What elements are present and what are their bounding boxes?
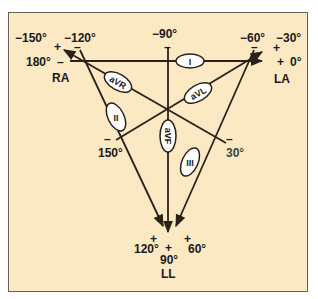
sign-minus-minus-60: – xyxy=(251,40,258,54)
sign-plus-0: + xyxy=(277,55,284,69)
lead-i-label: I xyxy=(176,54,204,68)
angle-minus-90: −90° xyxy=(152,27,177,41)
sign-minus-150: – xyxy=(104,132,111,146)
sign-minus-180: – xyxy=(57,55,64,69)
hexaxial-diagram: I aVR aVL II aVF III −150° + −120° – 180… xyxy=(0,0,318,299)
angle-90: 90° xyxy=(160,253,178,267)
electrode-ra: RA xyxy=(52,71,70,85)
angle-150: 150° xyxy=(98,146,123,160)
svg-text:aVF: aVF xyxy=(163,128,173,145)
sign-plus-minus-150: + xyxy=(54,40,61,54)
svg-text:I: I xyxy=(189,57,192,67)
sign-minus-minus-90: – xyxy=(164,40,171,54)
angle-0: 0° xyxy=(290,55,302,69)
angle-120: 120° xyxy=(134,242,159,256)
sign-minus-minus-120: – xyxy=(74,40,81,54)
angle-60: 60° xyxy=(188,242,206,256)
lead-avf-label: aVF xyxy=(160,120,176,152)
sign-minus-30: – xyxy=(226,132,233,146)
angle-180: 180° xyxy=(26,55,51,69)
sign-plus-minus-30: + xyxy=(273,41,280,55)
angle-minus-150: −150° xyxy=(15,31,47,45)
lead-iii-axis xyxy=(176,50,254,226)
angle-30: 30° xyxy=(226,146,244,160)
lead-avr-label: aVR xyxy=(101,68,135,97)
svg-text:III: III xyxy=(186,158,194,168)
svg-text:II: II xyxy=(113,113,118,123)
electrode-la: LA xyxy=(274,72,290,86)
electrode-ll: LL xyxy=(161,267,176,281)
